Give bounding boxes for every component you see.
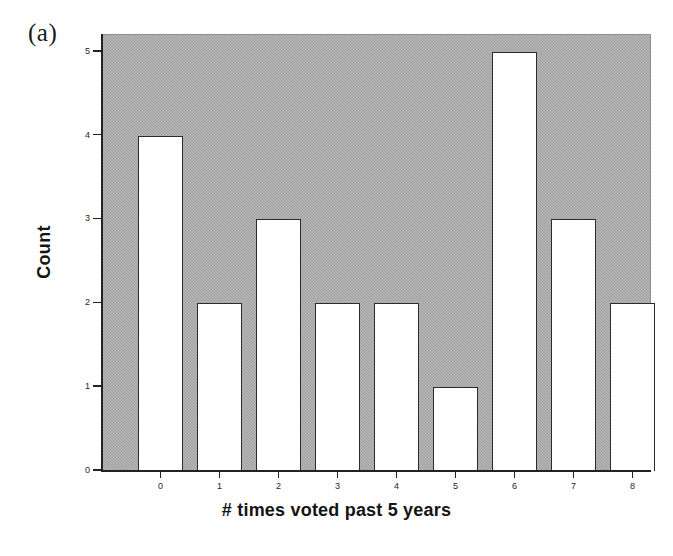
x-tick-2 <box>278 471 280 478</box>
y-tick-5 <box>93 50 101 52</box>
x-tick-0 <box>160 471 162 478</box>
y-tick-3 <box>93 218 101 220</box>
y-tick-label-0: 0 <box>72 465 90 475</box>
bar-6 <box>492 52 537 471</box>
y-axis-title: Count <box>34 225 55 278</box>
bar-3 <box>315 303 360 471</box>
bar-0 <box>138 136 183 471</box>
y-axis-line <box>101 34 103 471</box>
x-tick-label-1: 1 <box>208 481 232 491</box>
y-tick-label-1: 1 <box>72 381 90 391</box>
y-tick-label-2: 2 <box>72 297 90 307</box>
y-tick-label-5: 5 <box>72 46 90 56</box>
bar-5 <box>433 387 478 471</box>
x-tick-6 <box>514 471 516 478</box>
y-tick-4 <box>93 134 101 136</box>
x-tick-label-4: 4 <box>385 481 409 491</box>
panel-label: (a) <box>28 20 57 45</box>
x-tick-1 <box>219 471 221 478</box>
x-axis-title: # times voted past 5 years <box>0 500 673 521</box>
x-tick-8 <box>632 471 634 478</box>
x-tick-4 <box>396 471 398 478</box>
x-tick-label-8: 8 <box>621 481 645 491</box>
y-tick-0 <box>93 469 101 471</box>
x-tick-label-5: 5 <box>444 481 468 491</box>
y-tick-label-4: 4 <box>72 130 90 140</box>
y-tick-1 <box>93 385 101 387</box>
x-tick-label-6: 6 <box>503 481 527 491</box>
x-tick-5 <box>455 471 457 478</box>
x-tick-label-0: 0 <box>149 481 173 491</box>
x-axis-line <box>101 470 651 472</box>
y-tick-label-3: 3 <box>72 213 90 223</box>
bar-4 <box>374 303 419 471</box>
plot-area <box>102 34 651 471</box>
bar-1 <box>197 303 242 471</box>
x-tick-3 <box>337 471 339 478</box>
bar-8 <box>610 303 655 471</box>
y-tick-2 <box>93 302 101 304</box>
figure-panel: (a) 012345 012345678 Count # times voted… <box>0 0 673 556</box>
bar-7 <box>551 219 596 471</box>
bar-2 <box>256 219 301 471</box>
x-tick-7 <box>573 471 575 478</box>
x-tick-label-3: 3 <box>326 481 350 491</box>
x-tick-label-7: 7 <box>562 481 586 491</box>
x-tick-label-2: 2 <box>267 481 291 491</box>
